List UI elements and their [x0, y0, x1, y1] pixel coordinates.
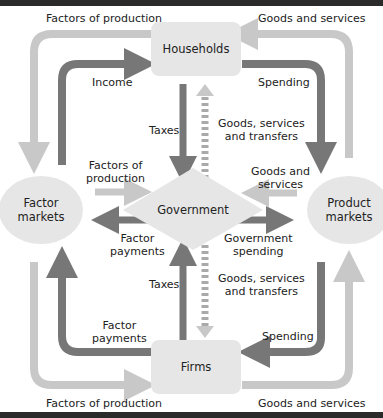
- label-top-right: Goods and services: [258, 12, 366, 25]
- factor-markets-label-1: Factor: [23, 196, 58, 210]
- label-fp-mid: Factor payments: [110, 232, 165, 258]
- product-markets-label-2: markets: [326, 210, 373, 224]
- label-gov-spending: Government spending: [224, 232, 293, 258]
- label-fp-bottom: Factor payments: [92, 319, 147, 345]
- label-spending-top: Spending: [258, 76, 310, 89]
- label-bottom-left: Factors of production: [46, 397, 162, 410]
- label-spending-bottom: Spending: [262, 330, 314, 343]
- label-gst-bottom: Goods, services and transfers: [218, 272, 305, 298]
- firms-node: Firms: [151, 340, 241, 394]
- label-gs-mid: Goods and services: [251, 165, 310, 191]
- government-node: Government: [143, 200, 243, 220]
- factor-markets-label-2: markets: [18, 210, 65, 224]
- label-gst-top: Goods, services and transfers: [218, 117, 305, 143]
- factor-markets-node: Factor markets: [0, 194, 82, 226]
- label-top-left: Factors of production: [46, 12, 162, 25]
- households-node: Households: [151, 22, 241, 76]
- product-markets-label-1: Product: [327, 196, 371, 210]
- label-taxes-bottom: Taxes: [149, 278, 179, 291]
- label-income: Income: [92, 76, 132, 89]
- arrow-factors-households-to-factor-markets: [34, 34, 152, 158]
- label-bottom-right: Goods and services: [258, 397, 366, 410]
- label-fop-mid: Factors of production: [86, 159, 145, 185]
- bottom-border: [0, 412, 383, 418]
- product-markets-node: Product markets: [307, 194, 383, 226]
- label-taxes-top: Taxes: [149, 124, 179, 137]
